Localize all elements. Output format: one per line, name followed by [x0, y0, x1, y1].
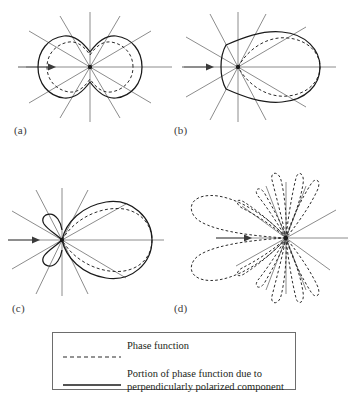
legend-label-perpendicular-line2: perpendicularly polarized component: [127, 381, 284, 394]
legend-label-perpendicular-line1: Portion of phase function due to: [127, 368, 262, 379]
incident-beam-arrow-b: [182, 64, 214, 71]
panel-label-c: (c): [12, 302, 25, 314]
origin-point-c: [60, 238, 64, 242]
legend-entry-perpendicular-component: Portion of phase function due to perpend…: [53, 364, 295, 393]
origin-point-d: [284, 236, 288, 240]
polar-panel-a: [6, 8, 174, 126]
polar-panel-c: [6, 176, 174, 301]
origin-point-b: [236, 65, 240, 69]
radial-spokes-c: [8, 188, 164, 296]
panel-label-d: (d): [174, 302, 187, 314]
polar-plot-c: [6, 176, 174, 301]
incident-beam-arrow-c: [8, 237, 40, 244]
legend-entry-phase-function: Phase function: [53, 333, 295, 364]
polar-plot-a: [6, 8, 174, 126]
polar-plot-b: [178, 8, 346, 126]
legend-label-perpendicular-component: Portion of phase function due to perpend…: [123, 368, 284, 393]
legend-swatch-dashed: [61, 340, 123, 364]
backscatter-nub-upper-c: [43, 214, 62, 240]
scattering-phase-function-figure: (a): [0, 0, 352, 401]
incident-beam-arrow-d: [216, 235, 252, 242]
polar-panel-d: [178, 166, 350, 311]
legend-swatch-solid: [61, 368, 123, 392]
legend-label-phase-function: Phase function: [123, 340, 189, 353]
legend-label-phase-function-line1: Phase function: [127, 340, 189, 351]
backscatter-nub-lower-c: [43, 240, 62, 266]
origin-point-a: [88, 65, 92, 69]
panel-label-a: (a): [14, 124, 27, 136]
incident-beam-arrow-a: [18, 64, 56, 71]
polar-panel-b: [178, 8, 346, 126]
panel-label-b: (b): [174, 124, 187, 136]
polar-plot-d: [178, 166, 350, 311]
legend: Phase function Portion of phase function…: [52, 332, 296, 390]
